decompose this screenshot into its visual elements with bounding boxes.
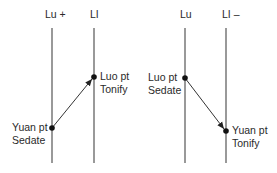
left-yuan-point-action: Sedate [12,134,48,147]
right-luo-point-dot [182,75,188,81]
left-transfer-arrow [52,79,92,128]
right-luo-point-label: Luo pt Sedate [148,71,181,97]
left-luo-point-name: Luo pt [100,70,129,83]
left-luo-point-dot [91,74,97,80]
left-lu-header: Lu + [45,8,66,20]
left-li-header: LI [90,8,99,20]
right-transfer-arrow [185,78,224,129]
left-luo-point-label: Luo pt Tonify [100,70,129,96]
right-lu-header: Lu [180,8,192,20]
left-yuan-point-name: Yuan pt [12,121,48,134]
right-yuan-point-label: Yuan pt Tonify [232,124,268,150]
right-luo-point-name: Luo pt [148,71,181,84]
left-luo-point-action: Tonify [100,83,129,96]
left-yuan-point-dot [49,125,55,131]
left-yuan-point-label: Yuan pt Sedate [12,121,48,147]
right-yuan-point-name: Yuan pt [232,124,268,137]
right-luo-point-action: Sedate [148,84,181,97]
right-li-header: LI – [222,8,240,20]
right-yuan-point-dot [223,128,229,134]
right-yuan-point-action: Tonify [232,137,268,150]
